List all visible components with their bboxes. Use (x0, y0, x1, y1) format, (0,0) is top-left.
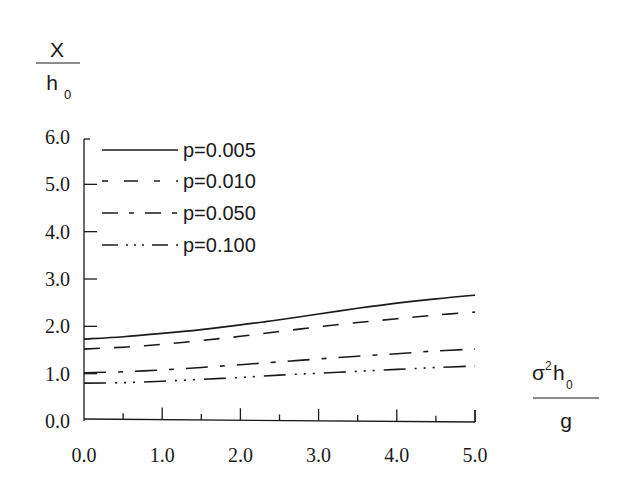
y-label-numerator: X (50, 38, 64, 61)
x-label-denominator: g (560, 409, 572, 432)
y-tick-label: 6.0 (45, 126, 70, 148)
x-axis-label: σ 2 h 0 g (532, 359, 599, 432)
x-tick-label: 5.0 (463, 444, 488, 466)
legend: p=0.005p=0.010p=0.050p=0.100 (102, 139, 256, 256)
x-ticks: 0.01.02.03.04.05.0 (72, 408, 488, 466)
y-tick-label: 1.0 (45, 363, 70, 385)
y-axis-label: X h 0 (36, 38, 80, 102)
series-line-p0010 (84, 312, 475, 349)
x-tick-label: 0.0 (72, 444, 97, 466)
y-tick-label: 5.0 (45, 173, 70, 195)
x-tick-label: 3.0 (306, 444, 331, 466)
legend-label: p=0.100 (183, 234, 256, 256)
series-line-p0100 (84, 366, 475, 383)
x-label-sigma: σ (532, 361, 545, 384)
y-label-denominator-subscript: 0 (64, 87, 71, 102)
y-tick-label: 2.0 (45, 315, 70, 337)
x-label-subscript: 0 (566, 378, 573, 392)
y-tick-label: 3.0 (45, 268, 70, 290)
x-label-h: h (553, 361, 565, 384)
legend-label: p=0.010 (183, 170, 256, 192)
y-ticks: 0.01.02.03.04.05.06.0 (45, 126, 97, 432)
legend-label: p=0.005 (183, 139, 256, 161)
y-tick-label: 0.0 (45, 410, 70, 432)
series-lines (84, 295, 475, 383)
y-tick-label: 4.0 (45, 221, 70, 243)
chart: X h 0 0.01.02.03.04.05.06.0 0.01.02.03.0… (0, 0, 620, 501)
y-label-denominator: h (46, 71, 58, 94)
legend-label: p=0.050 (183, 202, 256, 224)
x-tick-label: 4.0 (384, 444, 409, 466)
x-tick-label: 2.0 (228, 444, 253, 466)
x-label-superscript: 2 (545, 359, 552, 373)
axes (84, 139, 475, 422)
x-tick-label: 1.0 (150, 444, 175, 466)
